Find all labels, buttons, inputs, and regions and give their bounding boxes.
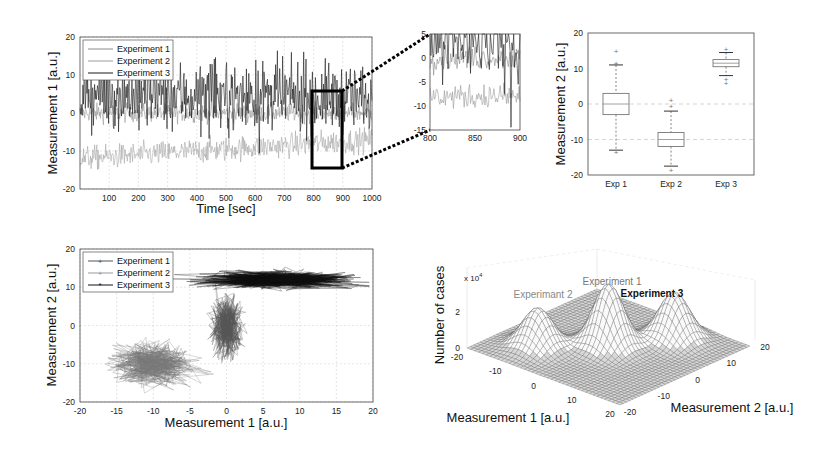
svg-text:10: 10 (66, 70, 76, 80)
svg-text:20: 20 (605, 409, 615, 419)
legend-experiment-2: Experiment 2 (117, 56, 170, 66)
svg-text:20: 20 (66, 244, 76, 254)
svg-text:0: 0 (70, 108, 75, 118)
annotation-experiment-2: Experimant 2 (514, 289, 573, 300)
svg-text:850: 850 (468, 133, 482, 143)
svg-text:+: + (614, 148, 619, 157)
box-2: +++ (658, 96, 684, 174)
z-multiplier: x 104 (464, 272, 482, 283)
svg-text:-20: -20 (571, 170, 584, 180)
svg-text:20: 20 (66, 32, 76, 42)
boxplot-ticks: -20-1001020Exp 1Exp 2Exp 3 (571, 28, 737, 189)
svg-text:-5: -5 (418, 77, 426, 87)
annotation-experiment-1: Experiment 1 (583, 276, 642, 287)
boxplot-boxes: +++++++++ (603, 45, 739, 175)
svg-text:-20: -20 (74, 406, 87, 416)
surface-mesh (467, 284, 750, 405)
svg-text:-15: -15 (414, 125, 427, 135)
svg-text:+: + (669, 102, 674, 111)
svg-text:-20: -20 (63, 184, 76, 194)
svg-text:0: 0 (421, 53, 426, 63)
legend-experiment-2: Experiment 2 (117, 268, 170, 278)
svg-text:20: 20 (368, 406, 378, 416)
category-label: Exp 2 (660, 179, 682, 189)
svg-text:+: + (98, 257, 103, 266)
svg-text:+: + (669, 166, 674, 175)
legend-experiment-1: Experiment 1 (117, 256, 170, 266)
scatter-xlabel: Measurement 1 [a.u.] (165, 415, 288, 430)
svg-text:200: 200 (131, 193, 145, 203)
svg-text:5: 5 (421, 29, 426, 39)
svg-text:100: 100 (102, 193, 116, 203)
scatter-plot: -20-15-10-505101520-20-1001020 + + * Exp… (44, 244, 378, 430)
svg-text:0: 0 (455, 343, 460, 353)
boxplot-ylabel: Measurement 2 [a.u.] (553, 43, 568, 166)
box-1: +++ (603, 47, 629, 157)
scatter-ylabel: Measurement 2 [a.u.] (44, 264, 59, 387)
svg-text:0: 0 (70, 321, 75, 331)
svg-text:20: 20 (574, 28, 584, 38)
zoom-connector-top (342, 34, 430, 91)
surface-xlabel: Measurement 1 [a.u.] (447, 410, 570, 425)
svg-text:-10: -10 (414, 101, 427, 111)
category-label: Exp 3 (715, 179, 737, 189)
svg-text:0: 0 (695, 375, 700, 385)
svg-text:-10: -10 (63, 146, 76, 156)
svg-text:-10: -10 (489, 366, 502, 376)
svg-text:+: + (724, 45, 729, 54)
svg-text:-10: -10 (63, 359, 76, 369)
timeseries-ylabel: Measurement 1 [a.u.] (45, 52, 60, 175)
svg-text:-15: -15 (110, 406, 123, 416)
svg-text:-10: -10 (147, 406, 160, 416)
scatter-legend: + + * Experiment 1 Experiment 2 Experime… (83, 252, 173, 292)
timeseries-xlabel: Time [sec] (196, 201, 255, 216)
svg-text:15: 15 (332, 406, 342, 416)
svg-text:-20: -20 (451, 352, 464, 362)
svg-text:10: 10 (66, 282, 76, 292)
svg-text:900: 900 (513, 133, 527, 143)
svg-text:0: 0 (578, 99, 583, 109)
timeseries-legend: Experiment 1 Experiment 2 Experiment 3 (83, 40, 173, 80)
svg-text:300: 300 (161, 193, 175, 203)
inset-zoom-plot: 800850900-15-10-505 (414, 29, 528, 143)
category-label: Exp 1 (605, 179, 627, 189)
svg-text:-10: -10 (571, 135, 584, 145)
svg-text:10: 10 (727, 358, 737, 368)
surface-3d-plot: -20-1001020-20-100102002 x 104 Experimen… (432, 249, 793, 425)
annotation-experiment-3: Experiment 3 (621, 288, 684, 299)
surface-zlabel: Number of cases (432, 265, 447, 364)
inset-lines (430, 34, 520, 127)
boxplot-plot: +++++++++ -20-1001020Exp 1Exp 2Exp 3 Mea… (553, 28, 754, 189)
svg-text:-10: -10 (658, 391, 671, 401)
svg-text:+: + (614, 59, 619, 68)
svg-text:1000: 1000 (363, 193, 382, 203)
svg-text:800: 800 (307, 193, 321, 203)
svg-text:10: 10 (574, 64, 584, 74)
svg-text:-20: -20 (63, 397, 76, 407)
svg-text:10: 10 (295, 406, 305, 416)
svg-text:+: + (724, 79, 729, 88)
svg-text:20: 20 (760, 342, 770, 352)
svg-text:10: 10 (567, 395, 577, 405)
legend-experiment-1: Experiment 1 (117, 44, 170, 54)
svg-text:0: 0 (531, 381, 536, 391)
box-3: +++ (713, 45, 739, 88)
timeseries-plot: 1002003004005006007008009001000-20-10010… (45, 32, 430, 216)
svg-text:+: + (98, 269, 103, 278)
legend-experiment-3: Experiment 3 (117, 280, 170, 290)
svg-text:2: 2 (455, 307, 460, 317)
svg-text:+: + (614, 47, 619, 56)
svg-text:900: 900 (336, 193, 350, 203)
svg-text:-20: -20 (624, 407, 637, 417)
svg-text:700: 700 (277, 193, 291, 203)
legend-experiment-3: Experiment 3 (117, 68, 170, 78)
svg-text:*: * (98, 281, 101, 290)
surface-ylabel: Measurement 2 [a.u.] (671, 400, 794, 415)
figure-canvas: 1002003004005006007008009001000-20-10010… (0, 0, 839, 449)
